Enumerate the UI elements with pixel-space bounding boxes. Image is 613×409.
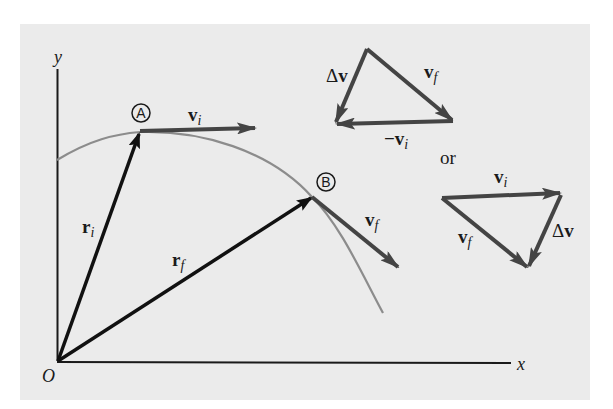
r-f-label: rf	[172, 249, 186, 273]
x-axis-label: x	[516, 354, 525, 374]
r-i-vector	[58, 134, 139, 361]
bottom-v-i-label: vi	[494, 166, 508, 190]
bottom-v-f-label: vf	[458, 226, 474, 250]
r-i-label: ri	[82, 216, 94, 240]
point-b-marker: B	[317, 173, 335, 191]
or-separator: or	[440, 147, 457, 168]
v-f-label: vf	[365, 209, 381, 233]
svg-text:A: A	[136, 105, 146, 121]
point-a-marker: A	[132, 104, 150, 122]
vector-triangle-top: Δv vf −vi	[326, 49, 453, 152]
x-axis	[57, 362, 511, 363]
y-axis-label: y	[52, 47, 62, 67]
origin-label: O	[42, 366, 55, 386]
top-v-f-label: vf	[424, 61, 440, 85]
top-triangle-v-f	[367, 49, 452, 120]
bottom-delta-v-label: Δv	[552, 220, 574, 241]
vector-triangle-bottom: vi vf Δv	[442, 166, 574, 267]
r-f-vector	[58, 198, 311, 361]
bottom-triangle-v-f	[442, 198, 527, 267]
motion-diagram: y x O ri rf vi vf A B Δv vf	[0, 0, 613, 409]
top-triangle-neg-v-i	[337, 121, 453, 124]
svg-text:B: B	[321, 174, 330, 190]
v-i-label: vi	[188, 104, 202, 128]
v-i-vector	[140, 128, 255, 131]
top-neg-v-i-label: −vi	[384, 128, 408, 152]
bottom-triangle-v-i	[442, 193, 560, 198]
v-f-vector	[312, 197, 398, 267]
top-delta-v-label: Δv	[326, 65, 348, 86]
